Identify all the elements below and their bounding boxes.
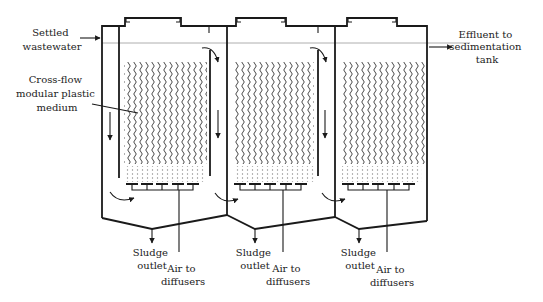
tank-3 bbox=[322, 18, 427, 252]
air-label-3: Air to diffusers bbox=[370, 264, 414, 288]
diffuser-grid-3 bbox=[342, 184, 415, 252]
effluent-label: Effluent to sedimentation tank bbox=[449, 29, 524, 65]
bubbles-3 bbox=[342, 166, 422, 182]
media-label: Cross-flow modular plastic medium bbox=[16, 74, 98, 113]
sludge-outlet-label-2: Sludge outlet bbox=[236, 247, 274, 271]
tank-2 bbox=[215, 18, 335, 252]
air-label-1: Air to diffusers bbox=[161, 263, 205, 287]
diffuser-grid-1 bbox=[126, 184, 199, 252]
settled-wastewater-label: Settled wastewater bbox=[23, 27, 82, 52]
tank-1 bbox=[102, 18, 227, 252]
sludge-outlet-label-1: Sludge outlet bbox=[133, 247, 171, 271]
trickling-filter-diagram: Settled wastewater Cross-flow modular pl… bbox=[0, 0, 543, 302]
diffuser-grid-2 bbox=[234, 184, 307, 252]
plastic-media-3 bbox=[341, 62, 425, 164]
bubbles-1 bbox=[126, 166, 206, 182]
plastic-media-2 bbox=[233, 62, 314, 164]
air-label-2: Air to diffusers bbox=[266, 263, 310, 287]
sludge-outlet-label-3: Sludge outlet bbox=[341, 247, 379, 271]
bubbles-2 bbox=[234, 166, 314, 182]
